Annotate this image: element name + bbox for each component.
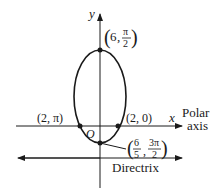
polar-axis-label-2: axis <box>187 118 208 133</box>
svg-text:,: , <box>117 29 120 44</box>
svg-text:): ) <box>161 137 168 160</box>
x-axis-label: x <box>168 110 175 125</box>
label-right-point: (2, 0) <box>126 111 152 125</box>
svg-text:): ) <box>131 26 138 49</box>
directrix-label: Directrix <box>112 160 159 175</box>
svg-text:3π: 3π <box>149 137 159 148</box>
svg-text:6: 6 <box>110 29 117 44</box>
polar-conic-diagram: y x Polar axis Directrix O ( 6 , π 2 ) (… <box>0 0 222 191</box>
svg-text:5: 5 <box>134 149 139 160</box>
y-axis-label: y <box>87 6 95 21</box>
point-left <box>78 124 83 129</box>
origin-label: O <box>86 127 95 141</box>
svg-text:2: 2 <box>123 38 128 49</box>
leader-line <box>100 143 126 149</box>
svg-text:π: π <box>123 26 128 37</box>
point-top <box>98 48 103 53</box>
svg-text:6: 6 <box>134 137 139 148</box>
label-bottom-point: ( 6 5 , 3π 2 ) <box>127 137 168 160</box>
label-top-point: ( 6 , π 2 ) <box>104 26 138 49</box>
svg-text:(: ( <box>127 137 134 160</box>
svg-text:2: 2 <box>152 149 157 160</box>
label-left-point: (2, π) <box>37 111 63 125</box>
point-right <box>116 124 121 129</box>
svg-text:,: , <box>143 144 146 158</box>
